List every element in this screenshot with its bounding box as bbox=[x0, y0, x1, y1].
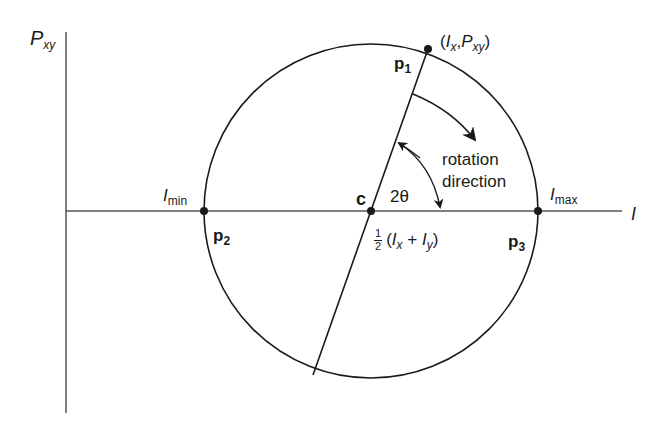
horizontal-axis-label: I bbox=[631, 205, 636, 223]
point-p1 bbox=[424, 45, 432, 53]
point-c bbox=[367, 207, 375, 215]
rotation-label-line2: direction bbox=[442, 173, 506, 190]
angle-label: 2θ bbox=[390, 188, 409, 205]
rotation-arrow-icon bbox=[413, 94, 475, 140]
point-p3 bbox=[534, 207, 542, 215]
rotation-label-line1: rotation bbox=[442, 151, 499, 168]
p1-coordinate-label: (Ix,Pxy) bbox=[440, 33, 490, 53]
center-expression: 12(Ix + Iy) bbox=[374, 228, 438, 252]
imin-label: Imin bbox=[163, 187, 187, 207]
vertical-axis-label: Pxy bbox=[30, 28, 55, 51]
point-p2 bbox=[200, 207, 208, 215]
p1-label: p1 bbox=[394, 55, 411, 75]
p2-label: p2 bbox=[213, 227, 230, 247]
p3-label: p3 bbox=[508, 233, 525, 253]
imax-label: Imax bbox=[550, 186, 577, 206]
c-label: c bbox=[356, 190, 366, 208]
mohr-circle-diagram bbox=[0, 0, 669, 422]
